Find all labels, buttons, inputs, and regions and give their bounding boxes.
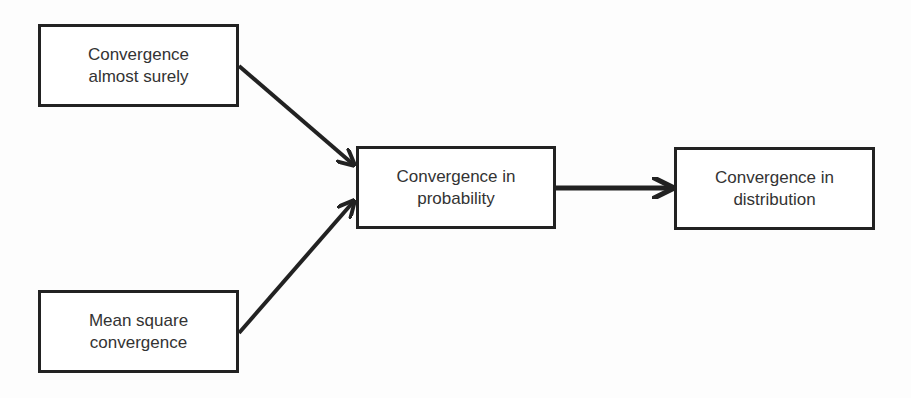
arrow-ms-to-prob [239,201,354,333]
node-convergence-in-probability: Convergence in probability [356,146,556,229]
node-label-line1: Convergence in [396,166,515,188]
node-mean-square-convergence: Mean square convergence [38,290,239,373]
node-label-line2: convergence [90,332,187,354]
node-label-line2: almost surely [88,66,188,88]
node-convergence-almost-surely: Convergence almost surely [38,24,239,107]
node-label-line2: distribution [733,189,815,211]
node-label-line2: probability [417,188,495,210]
node-label-line1: Convergence in [715,167,834,189]
node-label-line1: Mean square [89,310,188,332]
arrow-as-to-prob [239,66,354,165]
node-label-line1: Convergence [88,44,189,66]
diagram-canvas: Convergence almost surely Mean square co… [0,0,911,398]
node-convergence-in-distribution: Convergence in distribution [674,147,875,230]
